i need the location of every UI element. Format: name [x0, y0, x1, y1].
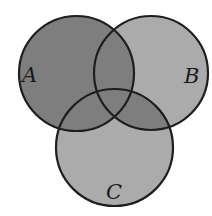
set-b-label: B — [183, 64, 199, 88]
set-c-label: C — [106, 180, 122, 204]
venn-diagram: A B C — [0, 0, 212, 216]
set-a-label: A — [20, 63, 37, 87]
